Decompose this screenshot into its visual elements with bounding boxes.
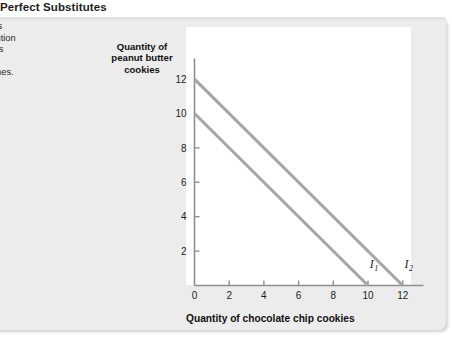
figure-root: Perfect Substitutes ct substitutes te of… — [0, 0, 452, 345]
x-axis-tick-label: 4 — [261, 290, 267, 301]
y-axis-tick-label: 2 — [181, 246, 187, 257]
y-axis-tick-label: 12 — [175, 74, 187, 85]
y-axis-tick-label: 8 — [181, 143, 187, 154]
y-axis-tick-label: 4 — [181, 211, 187, 222]
x-axis-tick-label: 6 — [296, 290, 302, 301]
indifference-curve-chart: 24681012024681012I1I2 — [0, 0, 452, 345]
x-axis-tick-label: 2 — [226, 290, 232, 301]
x-axis-tick-label: 0 — [192, 290, 198, 301]
y-axis-tick-label: 10 — [175, 108, 187, 119]
x-axis-tick-label: 10 — [362, 290, 374, 301]
y-axis-tick-label: 6 — [181, 177, 187, 188]
indifference-curve-i2 — [195, 79, 403, 285]
indifference-curve-i1 — [195, 114, 369, 286]
curve-label-i2: I2 — [403, 257, 413, 273]
x-axis-tick-label: 8 — [331, 290, 337, 301]
x-axis-tick-label: 12 — [397, 290, 409, 301]
